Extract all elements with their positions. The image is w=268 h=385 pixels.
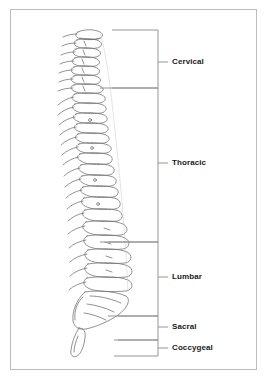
sacrum-group — [73, 291, 129, 329]
lumbar-vertebrae-group — [68, 221, 132, 292]
region-label-cervical: Cervical — [172, 58, 204, 66]
cervical-vertebrae-group — [58, 30, 103, 94]
bracket-thoracic — [100, 88, 168, 242]
region-label-thoracic: Thoracic — [172, 159, 206, 167]
bracket-coccygeal — [114, 340, 168, 356]
spine-illustration-svg — [0, 0, 268, 385]
region-label-coccygeal: Coccygeal — [172, 344, 213, 352]
region-label-sacral: Sacral — [172, 323, 197, 331]
spine-diagram-figure: Cervical Thoracic Lumbar Sacral Coccygea… — [0, 0, 268, 385]
coccyx-group — [71, 328, 85, 357]
bracket-lumbar — [108, 242, 168, 316]
vertebral-column-drawing — [58, 30, 132, 357]
region-label-lumbar: Lumbar — [172, 273, 202, 281]
bracket-sacral — [118, 316, 168, 340]
thoracic-vertebrae-group — [58, 93, 122, 222]
bracket-cervical — [112, 30, 168, 88]
region-bracket-system — [100, 30, 168, 356]
